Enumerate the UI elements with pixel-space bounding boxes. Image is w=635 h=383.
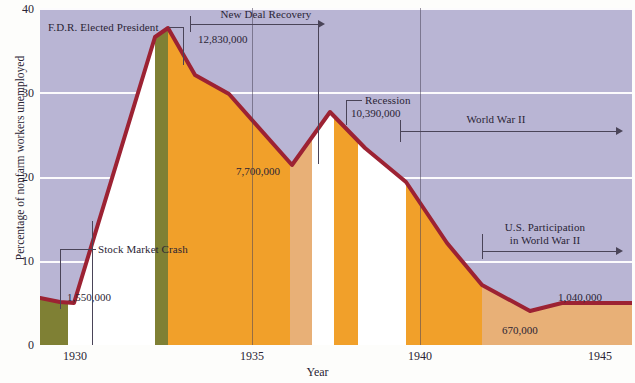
new-deal-end-drop bbox=[318, 24, 319, 164]
annotation-stock-market-crash: Stock Market Crash bbox=[98, 243, 188, 255]
value-label-12830000: 12,830,000 bbox=[198, 33, 248, 45]
annotation-us-participation-line2: in World War II bbox=[480, 234, 610, 246]
annotation-fdr-elected: F.D.R. Elected President bbox=[48, 21, 159, 33]
recession-leader-h bbox=[346, 100, 362, 101]
value-label-10390000: 10,390,000 bbox=[351, 107, 401, 119]
plot-area: F.D.R. Elected President New Deal Recove… bbox=[40, 8, 632, 345]
series-svg bbox=[40, 8, 632, 345]
annotation-recession: Recession bbox=[365, 94, 411, 106]
wwii-arrowhead-icon bbox=[616, 127, 623, 135]
fdr-leader-h bbox=[169, 27, 184, 28]
crash-leader-v bbox=[60, 249, 61, 309]
x-tick-1940: 1940 bbox=[390, 349, 450, 364]
x-tick-1930: 1930 bbox=[45, 349, 105, 364]
wwii-arrow-line bbox=[400, 131, 618, 132]
xtick-rule-1940 bbox=[420, 8, 421, 345]
x-tick-1935: 1935 bbox=[222, 349, 282, 364]
series-layer bbox=[40, 8, 632, 345]
x-tick-1945: 1945 bbox=[570, 349, 630, 364]
value-label-1550000: 1,550,000 bbox=[67, 291, 111, 303]
value-label-1040000: 1,040,000 bbox=[558, 291, 602, 303]
us-participation-arrowhead-icon bbox=[616, 247, 623, 255]
fdr-leader-v bbox=[183, 27, 184, 65]
area-bands bbox=[40, 8, 632, 345]
value-label-670000: 670,000 bbox=[502, 324, 538, 336]
y-axis-label-box: Percentage of nonfarm workers unemployed bbox=[0, 0, 18, 337]
chart-figure: 40 30 20 10 0 Percentage of nonfarm work… bbox=[0, 0, 635, 383]
crash-leader-h bbox=[60, 249, 96, 250]
xtick-rule-1935 bbox=[252, 8, 253, 345]
annotation-new-deal-recovery: New Deal Recovery bbox=[196, 8, 336, 20]
recession-leader-v bbox=[346, 100, 347, 125]
annotation-us-participation-line1: U.S. Participation bbox=[480, 221, 610, 233]
y-tick-0: 0 bbox=[8, 338, 34, 353]
us-participation-arrow-line bbox=[482, 251, 618, 252]
annotation-world-war-ii: World War II bbox=[436, 113, 556, 125]
new-deal-arrow-line bbox=[190, 24, 320, 25]
x-axis-label: Year bbox=[0, 365, 635, 380]
value-label-7700000: 7,700,000 bbox=[236, 165, 280, 177]
y-axis-label: Percentage of nonfarm workers unemployed bbox=[14, 8, 26, 308]
new-deal-arrowhead-icon bbox=[318, 20, 325, 28]
value-1550000-leader bbox=[92, 221, 93, 345]
us-participation-start-tick bbox=[482, 234, 483, 259]
